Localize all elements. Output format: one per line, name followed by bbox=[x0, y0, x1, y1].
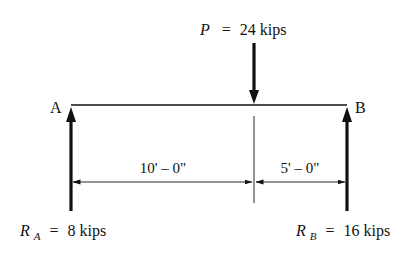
support-label-a: A bbox=[50, 99, 62, 116]
reaction-arrow-a bbox=[66, 107, 76, 211]
support-label-b: B bbox=[355, 99, 366, 116]
load-symbol: P bbox=[199, 21, 210, 38]
load-equals: = bbox=[222, 21, 231, 38]
dimension-label-left: 10' – 0" bbox=[140, 160, 186, 176]
load-label: P = 24 kips bbox=[199, 21, 286, 39]
reaction-a-equals: = bbox=[50, 222, 59, 239]
reaction-a-value: 8 kips bbox=[68, 222, 107, 240]
reaction-a-symbol: R bbox=[19, 222, 30, 239]
load-value: 24 kips bbox=[240, 21, 287, 39]
beam-diagram: P = 24 kips A B 10' – 0" 5' – 0" R A = 8… bbox=[0, 0, 418, 254]
reaction-arrow-b bbox=[342, 107, 352, 211]
reaction-b-equals: = bbox=[326, 222, 335, 239]
reaction-a-subscript: A bbox=[33, 230, 41, 242]
reaction-b-subscript: B bbox=[310, 230, 317, 242]
reaction-b-value: 16 kips bbox=[344, 222, 391, 240]
dimension-label-right: 5' – 0" bbox=[281, 160, 320, 176]
reaction-b-symbol: R bbox=[295, 222, 306, 239]
reaction-label-a: R A = 8 kips bbox=[19, 222, 106, 243]
reaction-label-b: R B = 16 kips bbox=[295, 222, 390, 243]
load-arrow-p bbox=[249, 43, 259, 104]
